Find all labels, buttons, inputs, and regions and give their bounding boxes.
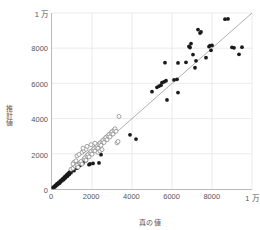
y-tick-label: 6000 (31, 79, 48, 88)
y-tick-label: 4000 (31, 115, 48, 124)
x-tick-label: 6000 (163, 192, 180, 201)
y-tick-label: 8000 (31, 44, 48, 53)
y-axis-title: 推計値 (1, 105, 13, 126)
scatter-chart: 推計値 020004000600080001 万 020004000600080… (0, 0, 260, 230)
x-tick-label: 4000 (123, 192, 140, 201)
x-tick-label: 0 (49, 192, 53, 201)
x-tick-label: 2000 (83, 192, 100, 201)
x-axis-title: 真の値 (0, 217, 260, 227)
y-tick-label: 1 万 (35, 8, 48, 19)
x-axis-tick-labels: 020004000600080001 万 (0, 192, 260, 206)
data-points (52, 13, 252, 189)
x-tick-label: 8000 (203, 192, 220, 201)
plot-area (51, 13, 252, 190)
y-tick-label: 2000 (31, 150, 48, 159)
x-tick-label: 1 万 (245, 192, 258, 203)
